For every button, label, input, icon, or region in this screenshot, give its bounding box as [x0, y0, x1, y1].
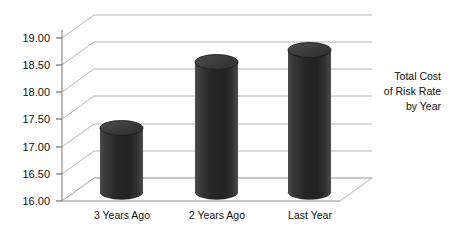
y-tick-label-17-50: 17.50: [22, 113, 50, 125]
bar-top-3-years-ago: [100, 121, 143, 136]
bar-body-last-year: [288, 50, 331, 200]
bar-top-last-year: [288, 43, 331, 58]
category-label-3-years-ago: 3 Years Ago: [94, 209, 150, 221]
cost-of-risk-rate-bar-chart: 19.00 18.50 18.00 17.50 17.00 16.50 16.0…: [0, 0, 458, 241]
bar-body-3-years-ago: [100, 128, 143, 200]
category-label-last-year: Last Year: [288, 209, 332, 221]
legend-line-2: of Risk Rate: [384, 85, 441, 97]
y-tick-label-17-00: 17.00: [22, 141, 50, 153]
bar-body-2-years-ago: [195, 62, 238, 200]
bar-cylinder-3-years-ago[interactable]: [100, 121, 143, 200]
y-tick-label-16-50: 16.50: [22, 168, 50, 180]
legend-line-1: Total Cost: [394, 70, 441, 82]
bar-cylinder-2-years-ago[interactable]: [195, 55, 238, 200]
gridline-top: [62, 15, 372, 38]
category-label-2-years-ago: 2 Years Ago: [189, 209, 245, 221]
y-tick-label-18-50: 18.50: [22, 59, 50, 71]
chart-container: 19.00 18.50 18.00 17.50 17.00 16.50 16.0…: [0, 0, 458, 241]
y-tick-label-18-00: 18.00: [22, 86, 50, 98]
bar-cylinder-last-year[interactable]: [288, 43, 331, 200]
x-axis-category-labels: 3 Years Ago 2 Years Ago Last Year: [94, 209, 332, 221]
bar-top-2-years-ago: [195, 55, 238, 70]
y-axis-ticks: [56, 38, 62, 201]
y-tick-label-19-00: 19.00: [22, 32, 50, 44]
y-tick-label-16-00: 16.00: [22, 195, 50, 207]
legend-line-3: by Year: [406, 100, 442, 112]
y-axis-tick-labels: 19.00 18.50 18.00 17.50 17.00 16.50 16.0…: [22, 32, 50, 207]
legend: Total Cost of Risk Rate by Year: [384, 70, 442, 112]
